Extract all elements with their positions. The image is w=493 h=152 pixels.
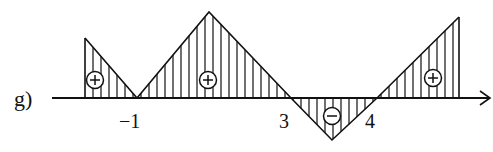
sign-diagram: g) −134 — [0, 0, 493, 152]
function-graph — [85, 12, 459, 140]
plus-sign-icon — [425, 70, 442, 87]
tick-label: 3 — [279, 110, 289, 132]
plus-sign-icon — [200, 72, 217, 89]
part-label: g) — [14, 86, 32, 111]
tick-label: −1 — [119, 110, 140, 132]
sign-chart-svg: g) −134 — [0, 0, 493, 152]
hatch-lines — [93, 16, 453, 139]
minus-sign-icon — [324, 108, 341, 125]
tick-label: 4 — [365, 110, 375, 132]
plus-sign-icon — [87, 72, 104, 89]
